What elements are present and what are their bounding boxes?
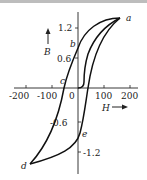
b-axis-label: B	[43, 47, 51, 57]
point-label-c: c	[60, 76, 65, 86]
h-tick-label: -100	[37, 91, 57, 101]
h-tick-label: 0	[69, 91, 75, 101]
point-label-b: b	[70, 39, 76, 49]
hysteresis-figure: -200 -100 0 100 200 1.2 0.6 -0.6 -1.2 B …	[0, 0, 147, 180]
point-label-d: d	[21, 161, 27, 171]
h-tick-label: 200	[121, 91, 138, 101]
initial-magnetization-curve	[78, 18, 120, 88]
b-axis-arrow-icon	[46, 28, 51, 44]
h-tick-label: 100	[95, 91, 112, 101]
h-axis-label: H	[101, 103, 110, 113]
point-label-a: a	[126, 13, 131, 23]
point-label-e: e	[82, 129, 87, 139]
hysteresis-plot: -200 -100 0 100 200 1.2 0.6 -0.6 -1.2 B …	[0, 0, 147, 180]
b-tick-label: 0.6	[57, 54, 72, 64]
b-tick-label: -1.2	[83, 148, 100, 158]
h-tick-label: -200	[9, 91, 29, 101]
b-tick-label: 1.2	[58, 23, 72, 33]
h-axis-arrow-icon	[112, 105, 128, 110]
